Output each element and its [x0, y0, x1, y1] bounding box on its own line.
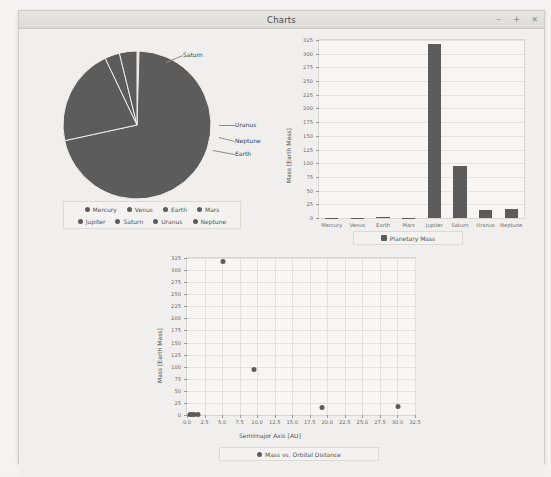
- scatter-chart-y-tick-label: 325: [151, 255, 181, 261]
- scatter-chart-x-tick-mark: [205, 415, 206, 418]
- pie-legend-swatch-icon: [197, 207, 202, 212]
- bar-chart-gridline: [319, 204, 524, 205]
- pie-slice-label: Neptune: [235, 137, 261, 144]
- scatter-chart-gridline: [345, 258, 346, 415]
- pie-legend-label: Saturn: [123, 218, 143, 225]
- scatter-chart-gridline: [397, 258, 398, 415]
- bar-chart-bar[interactable]: [453, 166, 466, 218]
- scatter-chart-x-tick-mark: [275, 415, 276, 418]
- bar-chart-bar[interactable]: [325, 218, 338, 219]
- scatter-chart-x-tick-label: 12.5: [269, 419, 281, 425]
- bar-chart-y-tick-label: 250: [283, 78, 313, 84]
- scatter-chart-x-tick-label: 17.5: [304, 419, 316, 425]
- bar-chart-bar[interactable]: [428, 44, 441, 218]
- bar-chart-y-tick-label: 200: [283, 105, 313, 111]
- bar-chart-y-tick-mark: [316, 191, 319, 192]
- scatter-chart-y-tick-label: 200: [151, 315, 181, 321]
- pie-legend-item: Mars: [197, 206, 219, 213]
- pie-legend-label: Neptune: [201, 218, 227, 225]
- scatter-chart-y-tick-mark: [184, 318, 187, 319]
- bar-chart-y-tick-mark: [316, 163, 319, 164]
- close-button[interactable]: ✕: [530, 16, 539, 24]
- bar-chart-y-tick-mark: [316, 108, 319, 109]
- bar-chart-x-tick-label: Neptune: [500, 222, 522, 228]
- bar-chart-y-tick-label: 325: [283, 37, 313, 43]
- pie-chart-svg: [23, 33, 275, 223]
- bar-chart-gridline: [319, 163, 524, 164]
- scatter-chart-x-tick-mark: [327, 415, 328, 418]
- scatter-point[interactable]: [319, 405, 324, 410]
- bar-chart-panel[interactable]: 0255075100125150175200225250275300325Mer…: [275, 33, 538, 247]
- pie-legend-swatch-icon: [78, 219, 83, 224]
- window-titlebar[interactable]: Charts – + ✕: [19, 11, 544, 29]
- scatter-chart-panel[interactable]: 02550751001251501752002252502753003250.0…: [23, 251, 538, 473]
- scatter-chart-y-tick-mark: [184, 270, 187, 271]
- bar-chart-bar[interactable]: [376, 217, 389, 218]
- scatter-chart-plot-area[interactable]: 02550751001251501752002252502753003250.0…: [186, 257, 416, 416]
- scatter-chart-x-tick-mark: [415, 415, 416, 418]
- minimize-button[interactable]: –: [494, 16, 503, 24]
- pie-legend-swatch-icon: [193, 219, 198, 224]
- window-title: Charts: [19, 15, 544, 25]
- scatter-point[interactable]: [195, 412, 200, 417]
- scatter-chart-x-tick-label: 15.0: [286, 419, 298, 425]
- scatter-point[interactable]: [395, 404, 400, 409]
- scatter-point[interactable]: [221, 259, 226, 264]
- scatter-chart-x-tick-label: 25.0: [357, 419, 369, 425]
- window-controls: – + ✕: [494, 11, 539, 28]
- pie-legend-item: Mercury: [85, 206, 117, 213]
- bar-chart-x-tick-label: Uranus: [476, 222, 494, 228]
- bar-chart-bar[interactable]: [505, 209, 518, 218]
- bar-chart-plot-area[interactable]: 0255075100125150175200225250275300325Mer…: [318, 39, 525, 219]
- scatter-chart-gridline: [415, 258, 416, 415]
- scatter-chart-y-axis-label: Mass [Earth Mass]: [156, 328, 163, 383]
- bar-chart-bar[interactable]: [402, 218, 415, 219]
- scatter-point[interactable]: [252, 367, 257, 372]
- bar-chart-y-axis-label: Mass [Earth Mass]: [285, 128, 292, 183]
- pie-slice-label: Uranus: [235, 121, 256, 128]
- scatter-chart-x-tick-label: 20.0: [322, 419, 334, 425]
- scatter-chart-gridline: [240, 258, 241, 415]
- scatter-chart-y-tick-label: 0: [151, 412, 181, 418]
- bar-chart-gridline: [319, 150, 524, 151]
- scatter-chart-x-tick-label: 32.5: [409, 419, 421, 425]
- bar-chart-x-tick-label: Jupiter: [426, 222, 443, 228]
- scatter-chart-y-tick-mark: [184, 379, 187, 380]
- maximize-button[interactable]: +: [512, 16, 521, 24]
- bar-chart-y-tick-label: 175: [283, 119, 313, 125]
- pie-chart-panel[interactable]: SaturnUranusNeptuneEarthJupiter MercuryV…: [23, 33, 275, 247]
- scatter-chart-y-tick-mark: [184, 367, 187, 368]
- scatter-chart-y-tick-label: 50: [151, 388, 181, 394]
- pie-chart-canvas[interactable]: SaturnUranusNeptuneEarthJupiter: [23, 33, 275, 223]
- charts-window: Charts – + ✕ SaturnUranusNeptuneEarthJup…: [18, 10, 545, 464]
- bar-chart-gridline: [319, 54, 524, 55]
- bar-chart-y-tick-mark: [316, 204, 319, 205]
- scatter-chart-y-tick-mark: [184, 403, 187, 404]
- scatter-chart-y-tick-label: 300: [151, 267, 181, 273]
- scatter-chart-x-tick-label: 27.5: [374, 419, 386, 425]
- pie-legend-label: Uranus: [161, 218, 182, 225]
- bar-chart-bar[interactable]: [479, 210, 492, 218]
- scatter-chart-gridline: [380, 258, 381, 415]
- bar-chart-y-tick-label: 25: [283, 201, 313, 207]
- scatter-chart-x-tick-label: 2.5: [200, 419, 208, 425]
- scatter-chart-gridline: [257, 258, 258, 415]
- bar-chart-x-tick-label: Venus: [350, 222, 366, 228]
- scatter-chart-y-tick-label: 225: [151, 303, 181, 309]
- scatter-chart-gridline: [275, 258, 276, 415]
- bar-chart-gridline: [319, 177, 524, 178]
- scatter-chart-y-tick-label: 25: [151, 400, 181, 406]
- bar-chart-gridline: [319, 136, 524, 137]
- pie-legend-item: Earth: [163, 206, 187, 213]
- pie-legend-label: Mars: [205, 206, 219, 213]
- scatter-chart-y-tick-mark: [184, 355, 187, 356]
- bar-legend-label: Planetary Mass: [390, 235, 436, 242]
- bar-chart-y-tick-label: 0: [283, 215, 313, 221]
- bar-chart-bar[interactable]: [351, 218, 364, 219]
- scatter-chart-x-tick-mark: [240, 415, 241, 418]
- scatter-chart-y-tick-mark: [184, 294, 187, 295]
- bar-chart-x-tick-label: Earth: [376, 222, 390, 228]
- pie-legend-item: Neptune: [193, 218, 227, 225]
- scatter-chart-gridline: [327, 258, 328, 415]
